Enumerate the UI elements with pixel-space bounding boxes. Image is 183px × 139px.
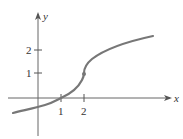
x-axis-label: x bbox=[173, 92, 179, 104]
y-tick-label-1: 1 bbox=[26, 67, 32, 79]
y-tick-label-2: 2 bbox=[26, 44, 32, 56]
chart: x y 1 2 1 2 bbox=[0, 0, 183, 139]
point-marker bbox=[82, 72, 86, 76]
y-axis-label: y bbox=[42, 10, 48, 22]
x-tick-label-2: 2 bbox=[81, 105, 87, 117]
x-tick-label-1: 1 bbox=[58, 105, 64, 117]
